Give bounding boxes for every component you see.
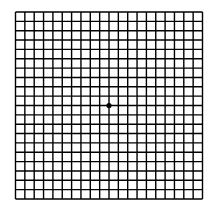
amsler-grid xyxy=(0,0,211,217)
center-fixation-dot xyxy=(106,103,111,108)
